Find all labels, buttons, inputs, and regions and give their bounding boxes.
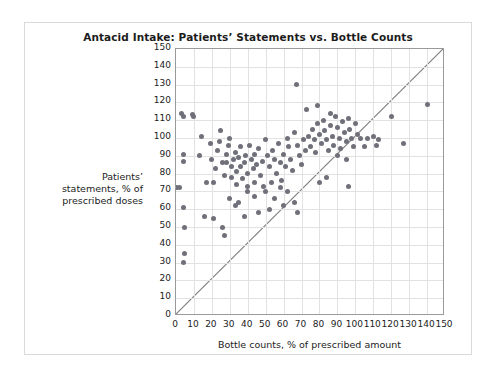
scatter-point (181, 114, 186, 119)
scatter-point (283, 164, 288, 169)
scatter-point (233, 203, 238, 208)
scatter-point (278, 160, 283, 165)
scatter-point (247, 143, 252, 148)
scatter-point (306, 134, 311, 139)
y-axis-title-line: statements, % of (39, 183, 143, 195)
grid-line-vertical (409, 49, 410, 314)
y-axis-tick-label: 90 (145, 149, 171, 159)
scatter-point (274, 171, 279, 176)
scatter-point (317, 180, 322, 185)
scatter-point (231, 157, 236, 162)
identity-line (176, 49, 443, 314)
y-axis-tick-label: 20 (145, 273, 171, 283)
y-axis-tick-label: 150 (145, 42, 171, 52)
scatter-point (276, 141, 281, 146)
grid-line-horizontal (176, 298, 443, 299)
scatter-point (181, 152, 186, 157)
scatter-point (389, 114, 394, 119)
grid-line-horizontal (176, 120, 443, 121)
scatter-point (267, 164, 272, 169)
grid-line-horizontal (176, 263, 443, 264)
scatter-point (374, 143, 379, 148)
scatter-point (344, 139, 349, 144)
scatter-point (371, 134, 376, 139)
y-axis-tick-label: 10 (145, 291, 171, 301)
scatter-point (181, 159, 186, 164)
y-axis-tick-label: 70 (145, 184, 171, 194)
plot-area (175, 48, 444, 315)
grid-line-vertical (427, 49, 428, 314)
grid-line-vertical (230, 49, 231, 314)
scatter-point (272, 157, 277, 162)
scatter-point (285, 136, 290, 141)
grid-line-horizontal (176, 174, 443, 175)
scatter-point (245, 184, 250, 189)
scatter-point (220, 225, 225, 230)
scatter-point (260, 159, 265, 164)
y-axis-tick-label: 80 (145, 167, 171, 177)
scatter-point (208, 141, 213, 146)
scatter-point (331, 143, 336, 148)
grid-line-horizontal (176, 245, 443, 246)
grid-line-vertical (302, 49, 303, 314)
scatter-point (226, 143, 231, 148)
grid-line-vertical (391, 49, 392, 314)
scatter-point (281, 152, 286, 157)
scatter-point (278, 185, 283, 190)
scatter-point (222, 173, 227, 178)
x-axis-title: Bottle counts, % of prescribed amount (175, 339, 444, 350)
scatter-point (326, 148, 331, 153)
scatter-point (346, 184, 351, 189)
y-axis-tick-label: 60 (145, 202, 171, 212)
scatter-point (358, 136, 363, 141)
grid-line-horizontal (176, 191, 443, 192)
scatter-point (238, 164, 243, 169)
grid-line-horizontal (176, 227, 443, 228)
scatter-point (227, 136, 232, 141)
grid-line-vertical (194, 49, 195, 314)
scatter-point (199, 134, 204, 139)
scatter-point (328, 111, 333, 116)
y-axis-tick-label: 100 (145, 131, 171, 141)
grid-line-horizontal (176, 67, 443, 68)
scatter-point (294, 82, 299, 87)
scatter-point (267, 207, 272, 212)
grid-line-horizontal (176, 209, 443, 210)
y-axis-title-line: Patients’ (39, 171, 143, 183)
scatter-point (321, 118, 326, 123)
scatter-point (290, 168, 295, 173)
scatter-point (346, 116, 351, 121)
scatter-point (303, 148, 308, 153)
y-axis-tick-label: 110 (145, 113, 171, 123)
y-axis-title-line: prescribed doses (39, 195, 143, 207)
chart-card: Antacid Intake: Patients’ Statements vs.… (24, 22, 472, 355)
grid-line-vertical (266, 49, 267, 314)
scatter-point (217, 139, 222, 144)
grid-line-horizontal (176, 156, 443, 157)
grid-line-vertical (355, 49, 356, 314)
grid-line-vertical (248, 49, 249, 314)
scatter-point (365, 136, 370, 141)
scatter-point (269, 180, 274, 185)
scatter-point (328, 123, 333, 128)
y-axis-tick-label: 120 (145, 95, 171, 105)
scatter-point (249, 157, 254, 162)
scatter-point (181, 260, 186, 265)
scatter-point (285, 189, 290, 194)
scatter-point (312, 137, 317, 142)
scatter-point (261, 184, 266, 189)
scatter-point (349, 136, 354, 141)
x-axis-tick-label: 150 (432, 319, 456, 329)
scatter-point (224, 152, 229, 157)
y-axis-tick-label: 50 (145, 220, 171, 230)
scatter-point (211, 216, 216, 221)
y-axis-tick-label: 30 (145, 256, 171, 266)
scatter-point (233, 150, 238, 155)
y-axis-tick-label: 40 (145, 238, 171, 248)
scatter-point (292, 200, 297, 205)
scatter-point (213, 166, 218, 171)
grid-line-horizontal (176, 102, 443, 103)
grid-line-horizontal (176, 85, 443, 86)
y-axis-tick-label: 140 (145, 60, 171, 70)
scatter-point (202, 214, 207, 219)
